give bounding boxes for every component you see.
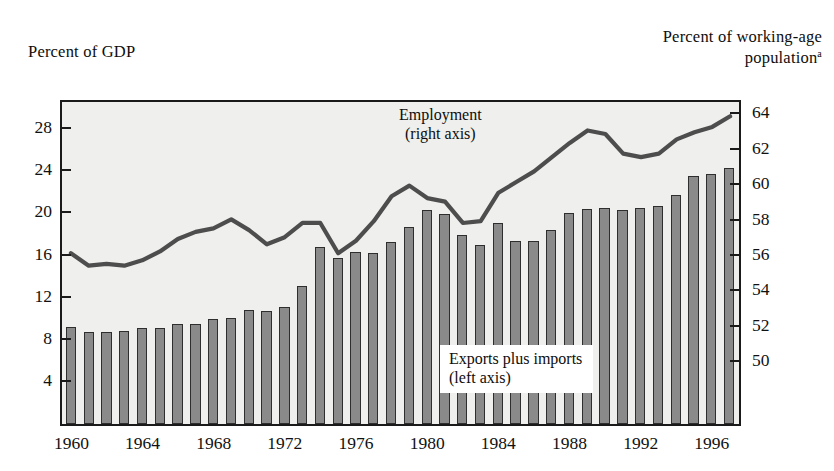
x-axis-tick-label: 1976 [321, 433, 391, 454]
right-axis-tick [730, 219, 741, 221]
right-axis-title: Percent of working-age populationa [663, 26, 822, 68]
left-axis-tick-label: 24 [12, 159, 52, 180]
right-axis-tick [730, 148, 741, 150]
annotation-exports: Exports plus imports (left axis) [440, 345, 593, 393]
left-axis-tick [60, 338, 71, 340]
x-axis-tick-label: 1992 [606, 433, 676, 454]
x-axis-tick-label: 1972 [250, 433, 320, 454]
right-axis-title-line1: Percent of working-age [663, 27, 822, 46]
left-axis-tick [60, 169, 71, 171]
left-axis-title: Percent of GDP [28, 41, 135, 62]
right-axis-title-line2: population [745, 48, 818, 67]
right-axis-tick [730, 254, 741, 256]
right-axis-tick-label: 50 [752, 350, 770, 371]
annotation-exports-line2: (left axis) [449, 368, 582, 387]
left-axis-tick-label: 28 [12, 117, 52, 138]
plot-area [60, 100, 741, 426]
right-axis-tick [730, 360, 741, 362]
plot-inner [62, 102, 739, 424]
left-axis-tick-label: 16 [12, 244, 52, 265]
left-axis-tick [60, 211, 71, 213]
x-axis-tick-label: 1984 [463, 433, 533, 454]
x-axis-tick-label: 1996 [677, 433, 747, 454]
line-series-employment [62, 102, 739, 424]
left-axis-tick [60, 380, 71, 382]
right-axis-tick-label: 58 [752, 209, 770, 230]
right-axis-tick [730, 289, 741, 291]
chart-figure: Percent of GDP Percent of working-age po… [0, 0, 834, 471]
x-axis-tick-label: 1960 [36, 433, 106, 454]
left-axis-tick-label: 12 [12, 286, 52, 307]
left-axis-tick [60, 296, 71, 298]
annotation-employment-line1: Employment [399, 105, 482, 124]
right-axis-tick-label: 52 [752, 315, 770, 336]
left-axis-tick-label: 4 [12, 370, 52, 391]
right-axis-title-footnote-marker: a [817, 48, 822, 59]
right-axis-tick-label: 54 [752, 279, 770, 300]
x-axis-tick-label: 1980 [392, 433, 462, 454]
annotation-employment: Employment (right axis) [399, 105, 482, 143]
x-axis-tick-label: 1968 [179, 433, 249, 454]
right-axis-tick [730, 183, 741, 185]
right-axis-tick [730, 325, 741, 327]
x-axis-tick-label: 1964 [108, 433, 178, 454]
right-axis-tick-label: 56 [752, 244, 770, 265]
annotation-employment-line2: (right axis) [399, 124, 482, 143]
right-axis-tick-label: 62 [752, 138, 770, 159]
right-axis-tick-label: 64 [752, 102, 770, 123]
left-axis-tick-label: 20 [12, 201, 52, 222]
left-axis-tick [60, 127, 71, 129]
left-axis-tick-label: 8 [12, 328, 52, 349]
x-axis-tick-label: 1988 [535, 433, 605, 454]
left-axis-tick [60, 254, 71, 256]
right-axis-tick [730, 112, 741, 114]
right-axis-tick-label: 60 [752, 173, 770, 194]
annotation-exports-line1: Exports plus imports [449, 349, 582, 368]
